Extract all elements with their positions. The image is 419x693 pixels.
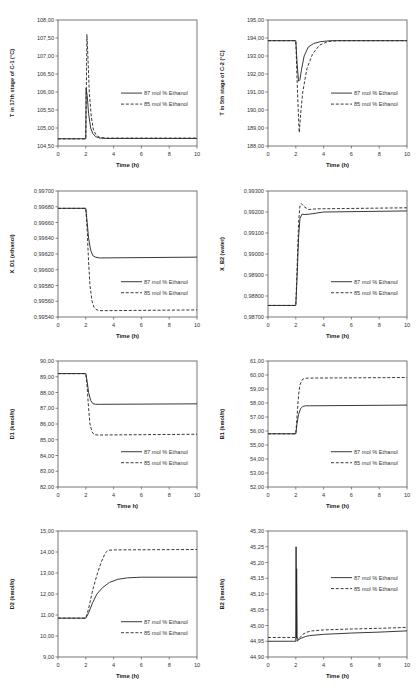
y-tick-label: 52,00	[250, 484, 264, 490]
x-tick-label: 0	[56, 492, 59, 498]
x-axis-label: Time (h)	[326, 333, 349, 339]
chart-svg: 104,50105,00105,50106,00106,50107,00107,…	[0, 6, 209, 174]
y-axis-label: X_B2 (water)	[219, 237, 225, 271]
plot-frame	[268, 20, 407, 146]
y-tick-label: 0,99640	[34, 235, 54, 241]
legend: 87 mol % Ethanol85 mol % Ethanol	[121, 619, 188, 636]
chart-d2-flow: 9,0010,0011,0012,0013,0014,0015,00024681…	[0, 517, 209, 685]
x-tick-label: 0	[56, 662, 59, 668]
x-tick-label: 4	[112, 151, 115, 157]
chart-svg: 44,9044,9545,0045,0545,1045,1545,2045,25…	[210, 517, 419, 685]
chart-b1-flow: 52,0053,0054,0055,0056,0057,0058,0059,00…	[210, 347, 419, 515]
y-tick-label: 87,00	[40, 405, 54, 411]
y-tick-label: 104,50	[37, 143, 54, 149]
x-tick-label: 8	[168, 492, 171, 498]
x-tick-label: 0	[266, 151, 269, 157]
y-tick-label: 0,99560	[34, 298, 54, 304]
legend-entry: 85 mol % Ethanol	[144, 101, 188, 107]
y-tick-label: 0,98900	[244, 272, 264, 278]
y-tick-label: 54,00	[250, 456, 264, 462]
y-tick-label: 57,00	[250, 414, 264, 420]
x-tick-label: 8	[168, 322, 171, 328]
x-tick-label: 8	[378, 322, 381, 328]
x-tick-label: 0	[56, 151, 59, 157]
series-85-line	[268, 41, 407, 133]
y-tick-label: 106,50	[37, 71, 54, 77]
chart-xb2-water: 0,987000,988000,989000,990000,991000,992…	[210, 177, 419, 345]
x-axis-label: Time (h)	[116, 333, 139, 339]
x-tick-label: 6	[350, 662, 353, 668]
x-tick-label: 2	[84, 322, 87, 328]
x-tick-label: 6	[140, 151, 143, 157]
y-tick-label: 194,00	[247, 35, 264, 41]
x-tick-label: 8	[378, 492, 381, 498]
series-87-line	[268, 405, 407, 434]
y-tick-label: 0,99200	[244, 209, 264, 215]
x-tick-label: 0	[266, 662, 269, 668]
x-tick-label: 2	[294, 322, 297, 328]
chart-xd1-ethanol: 0,995400,995600,995800,996000,996200,996…	[0, 177, 209, 345]
x-tick-label: 6	[350, 151, 353, 157]
y-axis-label: B1 (kmol/h)	[219, 409, 225, 440]
y-tick-label: 15,00	[40, 528, 54, 534]
legend-entry: 87 mol % Ethanol	[354, 279, 398, 285]
y-tick-label: 82,00	[40, 484, 54, 490]
legend-entry: 85 mol % Ethanol	[354, 290, 398, 296]
x-tick-label: 2	[84, 151, 87, 157]
y-tick-label: 56,00	[250, 428, 264, 434]
y-tick-label: 106,00	[37, 89, 54, 95]
y-tick-label: 90,00	[40, 358, 54, 364]
x-tick-label: 4	[112, 662, 115, 668]
series-85-line	[58, 34, 197, 138]
legend: 87 mol % Ethanol85 mol % Ethanol	[121, 279, 188, 296]
x-axis-label: Time (h)	[326, 162, 349, 168]
x-axis-label: Time h)	[117, 503, 138, 509]
y-tick-label: 0,99660	[34, 220, 54, 226]
y-tick-label: 86,00	[40, 421, 54, 427]
x-tick-label: 10	[194, 492, 200, 498]
y-tick-label: 12,00	[40, 591, 54, 597]
y-tick-label: 11,00	[40, 612, 54, 618]
y-tick-label: 105,00	[37, 125, 54, 131]
y-tick-label: 44,95	[250, 638, 264, 644]
y-axis-label: T in 17th stage of C-1 (°C)	[9, 49, 15, 117]
legend-entry: 85 mol % Ethanol	[354, 460, 398, 466]
legend-entry: 87 mol % Ethanol	[144, 619, 188, 625]
y-tick-label: 0,99600	[34, 267, 54, 273]
legend: 87 mol % Ethanol85 mol % Ethanol	[331, 279, 398, 296]
x-axis-label: Time (h)	[326, 503, 349, 509]
series-87-line	[58, 577, 197, 618]
x-tick-label: 0	[266, 322, 269, 328]
plot-frame	[58, 191, 197, 317]
x-tick-label: 10	[404, 322, 410, 328]
x-tick-label: 2	[294, 662, 297, 668]
plot-frame	[268, 191, 407, 317]
x-tick-label: 6	[350, 322, 353, 328]
x-tick-label: 10	[404, 492, 410, 498]
y-tick-label: 0,99620	[34, 251, 54, 257]
x-tick-label: 6	[140, 662, 143, 668]
y-tick-label: 55,00	[250, 442, 264, 448]
y-tick-label: 107,00	[37, 53, 54, 59]
x-tick-label: 0	[56, 322, 59, 328]
y-tick-label: 0,99000	[244, 251, 264, 257]
x-axis-label: Time (h)	[326, 673, 349, 679]
chart-d1-flow: 82,0083,0084,0085,0086,0087,0088,0089,00…	[0, 347, 209, 515]
x-tick-label: 6	[140, 322, 143, 328]
legend: 87 mol % Ethanol85 mol % Ethanol	[121, 90, 188, 107]
legend: 87 mol % Ethanol85 mol % Ethanol	[331, 449, 398, 466]
x-axis-label: Time (h)	[116, 673, 139, 679]
x-tick-label: 10	[194, 322, 200, 328]
y-tick-label: 89,00	[40, 374, 54, 380]
legend-entry: 87 mol % Ethanol	[354, 449, 398, 455]
x-tick-label: 8	[378, 662, 381, 668]
x-axis-label: Time (h)	[116, 162, 139, 168]
x-tick-label: 2	[84, 492, 87, 498]
chart-b2-flow: 44,9044,9545,0045,0545,1045,1545,2045,25…	[210, 517, 419, 685]
plot-frame	[58, 361, 197, 487]
y-axis-label: T in 5th stage of C-2 (°C)	[219, 50, 225, 115]
chart-t-c2: 188,00189,00190,00191,00192,00193,00194,…	[210, 6, 419, 174]
chart-svg: 9,0010,0011,0012,0013,0014,0015,00024681…	[0, 517, 209, 685]
series-87-line	[58, 208, 197, 258]
y-tick-label: 195,00	[247, 17, 264, 23]
